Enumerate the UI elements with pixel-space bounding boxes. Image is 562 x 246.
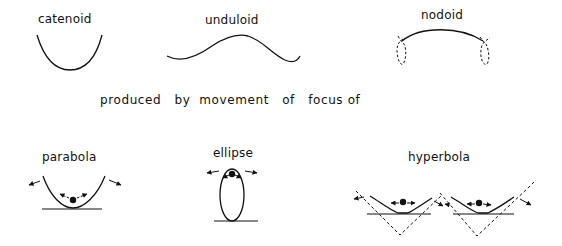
ellipse-diagram bbox=[207, 169, 258, 221]
focus-dot bbox=[400, 199, 406, 205]
parabola-diagram bbox=[29, 176, 121, 209]
focus-dot bbox=[229, 171, 235, 177]
unduloid-curve bbox=[167, 35, 300, 62]
focus-dot bbox=[476, 200, 482, 206]
focus-dot bbox=[70, 197, 76, 203]
catenoid-curve bbox=[37, 35, 102, 70]
hyperbola-diagram bbox=[354, 180, 536, 236]
nodoid-curve bbox=[397, 30, 490, 65]
